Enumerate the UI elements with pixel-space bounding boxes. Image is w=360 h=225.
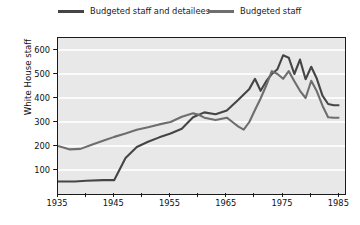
x-tick-mark bbox=[197, 193, 198, 197]
y-tick-mark bbox=[53, 169, 57, 170]
y-tick-label: 500 bbox=[34, 69, 53, 77]
x-tick-mark bbox=[113, 193, 114, 197]
x-tick-mark bbox=[253, 193, 254, 197]
x-tick-mark bbox=[338, 193, 339, 197]
series-lines bbox=[58, 38, 345, 194]
legend-label-series-1: Budgeted staff bbox=[240, 6, 301, 16]
y-tick-label: 400 bbox=[34, 93, 53, 101]
x-tick-label: 1975 bbox=[272, 199, 293, 207]
series-line-0 bbox=[58, 55, 339, 181]
x-tick-label: 1945 bbox=[103, 199, 124, 207]
x-tick-mark bbox=[310, 193, 311, 197]
legend-entry-budgeted-staff: Budgeted staff bbox=[208, 5, 301, 17]
y-tick-label: 300 bbox=[34, 117, 53, 125]
x-tick-mark bbox=[57, 193, 58, 197]
x-tick-label: 1965 bbox=[215, 199, 236, 207]
plot-area bbox=[57, 37, 346, 195]
legend-entry-budgeted-staff-and-detailees: Budgeted staff and detailees bbox=[58, 5, 210, 17]
y-tick-mark bbox=[53, 49, 57, 50]
y-tick-mark bbox=[53, 97, 57, 98]
chart-figure: Budgeted staff and detailees Budgeted st… bbox=[0, 0, 360, 225]
x-tick-mark bbox=[141, 193, 142, 197]
x-tick-label: 1985 bbox=[328, 199, 349, 207]
x-tick-mark bbox=[85, 193, 86, 197]
y-tick-label: 200 bbox=[34, 141, 53, 149]
series-line-1 bbox=[58, 71, 339, 149]
x-tick-label: 1955 bbox=[159, 199, 180, 207]
legend-swatch-series-0 bbox=[58, 10, 84, 13]
x-tick-mark bbox=[169, 193, 170, 197]
y-tick-label: 100 bbox=[34, 165, 53, 173]
chart-legend: Budgeted staff and detailees Budgeted st… bbox=[0, 0, 360, 26]
y-tick-mark bbox=[53, 145, 57, 146]
y-axis-label: White House staff bbox=[23, 2, 33, 152]
legend-label-series-0: Budgeted staff and detailees bbox=[90, 6, 210, 16]
legend-swatch-series-1 bbox=[208, 10, 234, 13]
x-tick-mark bbox=[282, 193, 283, 197]
y-tick-mark bbox=[53, 121, 57, 122]
y-tick-label: 600 bbox=[34, 45, 53, 53]
x-tick-mark bbox=[225, 193, 226, 197]
x-tick-label: 1935 bbox=[46, 199, 67, 207]
y-tick-mark bbox=[53, 73, 57, 74]
